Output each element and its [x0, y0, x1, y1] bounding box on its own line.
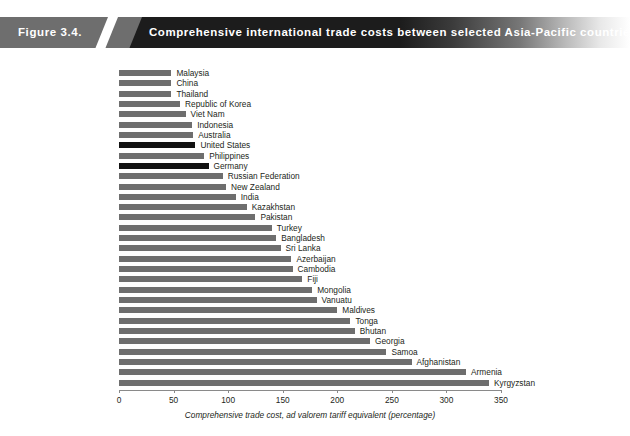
x-axis-tick-label: 200 — [330, 395, 344, 405]
bar — [119, 287, 312, 293]
bar — [119, 359, 412, 365]
bar — [119, 276, 302, 282]
bar-label: Afghanistan — [417, 356, 461, 368]
bar — [119, 338, 370, 344]
bar — [119, 111, 186, 117]
bar — [119, 163, 209, 169]
bar — [119, 256, 291, 262]
x-axis-tick — [119, 390, 120, 393]
bar — [119, 91, 171, 97]
x-axis-tick-label: 50 — [169, 395, 178, 405]
x-axis-tick — [446, 390, 447, 393]
x-axis-tick — [174, 390, 175, 393]
bar — [119, 132, 193, 138]
bar — [119, 204, 247, 210]
x-axis-tick-label: 100 — [221, 395, 235, 405]
bar — [119, 297, 317, 303]
bar — [119, 80, 171, 86]
bar — [119, 184, 226, 190]
x-axis-tick-label: 300 — [440, 395, 454, 405]
bar-chart: MalaysiaChinaThailandRepublic of KoreaVi… — [0, 0, 630, 436]
x-axis-tick-label: 350 — [494, 395, 508, 405]
bar — [119, 245, 281, 251]
bar — [119, 122, 192, 128]
bar — [119, 266, 293, 272]
bar — [119, 70, 171, 76]
x-axis-caption: Comprehensive trade cost, ad valorem tar… — [119, 410, 501, 420]
x-axis-tick — [228, 390, 229, 393]
bar — [119, 307, 337, 313]
x-axis-line — [119, 390, 501, 391]
bar — [119, 225, 272, 231]
x-axis-tick-label: 150 — [276, 395, 290, 405]
x-axis-tick-label: 250 — [385, 395, 399, 405]
x-axis-tick-label: 0 — [117, 395, 122, 405]
bar — [119, 235, 276, 241]
bar — [119, 349, 386, 355]
bar — [119, 318, 350, 324]
bar-label: Samoa — [391, 346, 417, 358]
bar — [119, 369, 466, 375]
bar — [119, 214, 255, 220]
x-axis-tick — [337, 390, 338, 393]
bar — [119, 328, 355, 334]
bar — [119, 153, 204, 159]
x-axis-tick — [283, 390, 284, 393]
bar — [119, 194, 236, 200]
x-axis-tick — [392, 390, 393, 393]
bar — [119, 101, 180, 107]
bar — [119, 142, 195, 148]
x-axis-tick — [501, 390, 502, 393]
bar — [119, 173, 223, 179]
bar-label: Kyrgyzstan — [494, 377, 535, 389]
bar — [119, 380, 489, 386]
